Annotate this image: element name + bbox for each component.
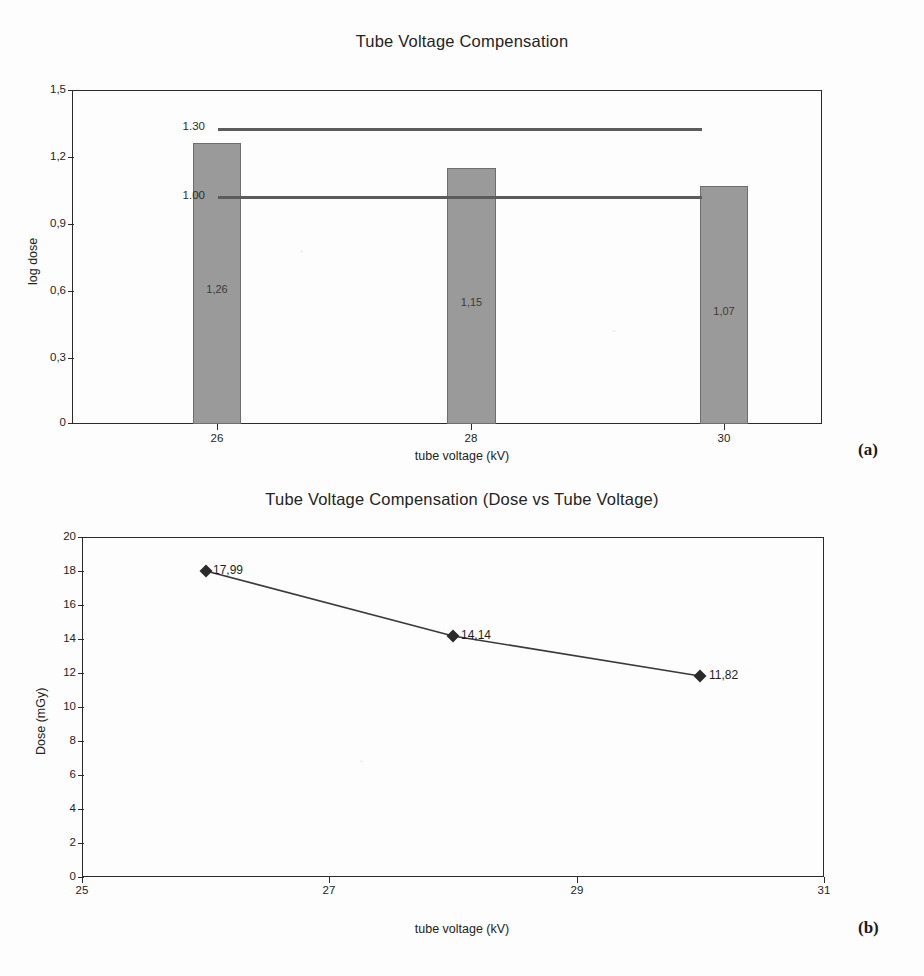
panel-b-letter: (b) <box>858 918 879 938</box>
chart-b-xtick-mark <box>577 877 578 883</box>
chart-b-xtick-mark <box>329 877 330 883</box>
data-point-label-28kv: 14,14 <box>461 628 491 642</box>
chart-b-xtick-mark <box>824 877 825 883</box>
data-point-marker <box>694 670 707 683</box>
chart-b-series-line <box>0 0 924 976</box>
scan-artifact <box>300 250 303 253</box>
chart-b-xtick-label: 31 <box>795 884 853 896</box>
scan-artifact <box>360 760 363 763</box>
chart-b-xtick-label: 27 <box>300 884 358 896</box>
chart-b-xtick-mark <box>82 877 83 883</box>
data-point-marker <box>200 565 213 578</box>
chart-b-xtick-label: 25 <box>53 884 111 896</box>
figure-page: Tube Voltage Compensation log dose 1,5 1… <box>0 0 924 976</box>
chart-b-x-axis-title: tube voltage (kV) <box>0 922 924 936</box>
data-point-marker <box>447 630 460 643</box>
data-point-label-26kv: 17,99 <box>213 563 243 577</box>
data-point-label-30kv: 11,82 <box>709 668 738 682</box>
chart-b-xtick-label: 29 <box>548 884 606 896</box>
scan-artifact <box>612 330 616 332</box>
